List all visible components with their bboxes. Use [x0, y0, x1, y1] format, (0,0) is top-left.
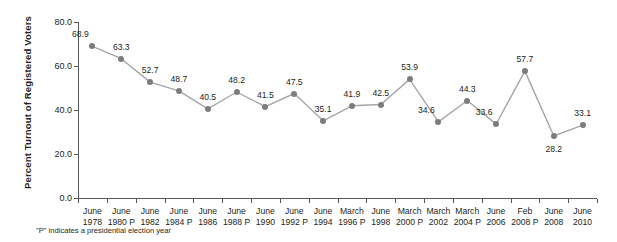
data-point	[493, 121, 499, 127]
data-point-label: 42.5	[372, 88, 389, 98]
x-axis-category-year: 2008 P	[511, 217, 538, 228]
data-point	[464, 98, 470, 104]
data-point-label: 44.3	[459, 84, 476, 94]
x-axis-category-year: 2002	[426, 217, 450, 228]
data-point-label: 28.2	[545, 144, 562, 154]
x-axis-category-label: June1986	[198, 206, 217, 228]
data-point	[118, 56, 124, 62]
x-axis-category-year: 1996 P	[338, 217, 365, 228]
x-axis-category-label: June1998	[371, 206, 390, 228]
x-axis-category-month: March	[454, 206, 481, 217]
data-point	[320, 118, 326, 124]
data-point	[378, 102, 384, 108]
data-point	[176, 88, 182, 94]
data-point-label: 53.9	[401, 62, 418, 72]
data-point-label: 57.7	[517, 54, 534, 64]
x-axis-category-label: June2006	[487, 206, 506, 228]
data-point-label: 34.6	[418, 105, 435, 115]
data-point	[580, 122, 586, 128]
data-point	[205, 106, 211, 112]
data-point-label: 40.5	[199, 92, 216, 102]
x-axis-category-year: 1990	[256, 217, 275, 228]
x-axis-category-label: June2008	[544, 206, 563, 228]
x-axis-category-month: June	[108, 206, 135, 217]
data-point	[349, 103, 355, 109]
x-axis-category-year: 2006	[487, 217, 506, 228]
x-axis-category-month: June	[256, 206, 275, 217]
chart-container: Percent Turnout of Registered Voters 0.0…	[0, 0, 617, 242]
x-axis-category-label: Feb2008 P	[511, 206, 538, 228]
x-axis-category-month: March	[396, 206, 423, 217]
data-point	[262, 104, 268, 110]
data-point-label: 68.9	[72, 29, 89, 39]
x-axis-category-month: June	[487, 206, 506, 217]
x-axis-category-year: 1994	[314, 217, 333, 228]
x-axis-category-year: 1992 P	[281, 217, 308, 228]
data-point	[407, 76, 413, 82]
x-axis-category-label: March2002	[426, 206, 450, 228]
x-axis-category-label: June1982	[141, 206, 160, 228]
data-point-label: 47.5	[286, 77, 303, 87]
data-point-label: 33.1	[574, 108, 591, 118]
x-axis-category-month: June	[544, 206, 563, 217]
data-point	[522, 68, 528, 74]
data-point-label: 63.3	[113, 42, 130, 52]
x-axis-category-month: June	[371, 206, 390, 217]
x-axis-category-label: June1980 P	[108, 206, 135, 228]
x-axis-category-month: June	[573, 206, 592, 217]
x-axis-category-label: March1996 P	[338, 206, 365, 228]
data-point-label: 35.1	[315, 104, 332, 114]
data-point	[89, 43, 95, 49]
x-axis-category-year: 2010	[573, 217, 592, 228]
x-axis-category-year: 2000 P	[396, 217, 423, 228]
x-axis-category-label: June1978	[83, 206, 102, 228]
x-axis-category-label: June1984 P	[165, 206, 192, 228]
x-axis-category-month: March	[426, 206, 450, 217]
data-point	[551, 133, 557, 139]
x-axis-category-month: June	[141, 206, 160, 217]
data-point	[234, 89, 240, 95]
data-point-label: 48.2	[228, 75, 245, 85]
x-axis-category-label: June1992 P	[281, 206, 308, 228]
x-axis-category-year: 1988 P	[223, 217, 250, 228]
data-point	[435, 119, 441, 125]
footnote: "P" indicates a presidential election ye…	[36, 226, 171, 235]
x-axis-category-month: June	[165, 206, 192, 217]
x-axis-category-month: June	[83, 206, 102, 217]
x-axis-category-month: June	[314, 206, 333, 217]
x-axis-category-label: March2000 P	[396, 206, 423, 228]
data-point	[147, 79, 153, 85]
x-axis-category-month: June	[198, 206, 217, 217]
x-axis-category-year: 1986	[198, 217, 217, 228]
x-axis-category-label: June1988 P	[223, 206, 250, 228]
x-axis-category-month: June	[281, 206, 308, 217]
data-point-label: 41.5	[257, 90, 274, 100]
x-axis-category-label: June1994	[314, 206, 333, 228]
x-axis-category-label: March2004 P	[454, 206, 481, 228]
data-point-label: 41.9	[344, 89, 361, 99]
line-series-path	[92, 46, 582, 136]
x-axis-category-year: 2008	[544, 217, 563, 228]
x-axis-category-label: June2010	[573, 206, 592, 228]
data-point-label: 48.7	[171, 74, 188, 84]
x-axis-category-month: Feb	[511, 206, 538, 217]
data-point-label: 52.7	[142, 65, 159, 75]
x-axis-category-month: March	[338, 206, 365, 217]
data-point-label: 33.6	[476, 107, 493, 117]
x-axis-category-year: 1998	[371, 217, 390, 228]
x-axis-category-year: 2004 P	[454, 217, 481, 228]
x-axis-category-label: June1990	[256, 206, 275, 228]
data-point	[291, 91, 297, 97]
x-axis-category-month: June	[223, 206, 250, 217]
